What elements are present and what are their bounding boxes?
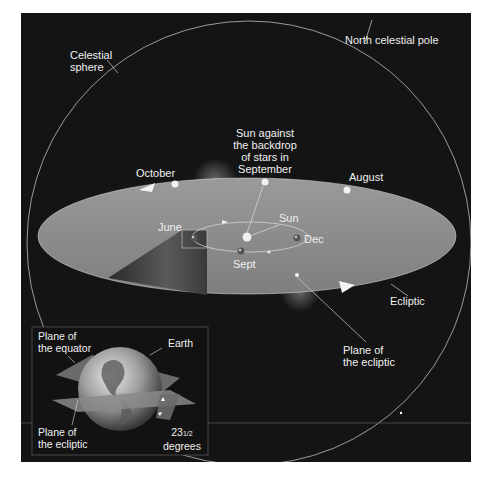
label-line: of stars in bbox=[228, 151, 302, 163]
sun-august bbox=[344, 187, 351, 194]
sun-october bbox=[172, 181, 179, 188]
tilt-unit: degrees bbox=[160, 440, 204, 452]
plane-of-ecliptic-label: Plane of the ecliptic bbox=[343, 344, 395, 368]
sun-backdrop-label: Sun against the backdrop of stars in Sep… bbox=[228, 127, 302, 175]
sept-label: Sept bbox=[233, 258, 256, 270]
sun-september bbox=[262, 179, 269, 186]
label-line: the ecliptic bbox=[343, 356, 395, 368]
inset-plane-of-ecliptic-label: Plane of the ecliptic bbox=[38, 426, 88, 450]
inset-tilt-label: 231/2 degrees bbox=[160, 426, 204, 452]
october-label: October bbox=[136, 167, 175, 179]
august-label: August bbox=[349, 171, 383, 183]
label-line: the ecliptic bbox=[38, 438, 88, 450]
inset-plane-of-equator-label: Plane of the equator bbox=[38, 330, 91, 354]
earth-june bbox=[191, 235, 198, 242]
ecliptic-point bbox=[295, 273, 299, 277]
tilt-fraction: 1/2 bbox=[183, 430, 193, 437]
label-line: Celestial bbox=[70, 49, 112, 61]
label-line: Plane of bbox=[343, 344, 395, 356]
earth-globe bbox=[78, 347, 162, 431]
celestial-sphere-diagram bbox=[0, 0, 495, 488]
label-line: Sun against bbox=[228, 127, 302, 139]
label-line: sphere bbox=[70, 61, 112, 73]
celestial-sphere-label: Celestial sphere bbox=[70, 49, 112, 73]
earth-dec bbox=[294, 235, 301, 242]
ecliptic-label: Ecliptic bbox=[390, 295, 425, 307]
label-line: Plane of bbox=[38, 426, 88, 438]
sun-center bbox=[243, 233, 252, 242]
label-line: the backdrop bbox=[228, 139, 302, 151]
north-celestial-pole-label: North celestial pole bbox=[345, 34, 439, 46]
label-line: September bbox=[228, 163, 302, 175]
sun-label: Sun bbox=[279, 212, 299, 224]
label-line: the equator bbox=[38, 342, 91, 354]
label-line: Plane of bbox=[38, 330, 91, 342]
tilt-value: 23 bbox=[171, 426, 183, 438]
dec-label: Dec bbox=[304, 233, 324, 245]
inset-earth-label: Earth bbox=[168, 337, 193, 349]
earth-sept bbox=[238, 248, 245, 255]
june-label: June bbox=[158, 221, 182, 233]
tilt-value-line: 231/2 bbox=[160, 426, 204, 440]
